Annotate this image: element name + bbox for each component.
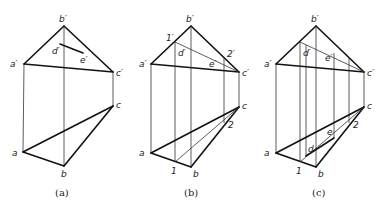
- label-a: a: [139, 148, 145, 158]
- label-a-prime: a′: [264, 59, 272, 69]
- label-e: e: [327, 127, 333, 137]
- edge-a-b: [23, 152, 64, 166]
- projection-diagram: b′ a′ c′ d′ e′ a b c (a) b′ 1′ d′ 2′ e′ …: [0, 0, 384, 212]
- segment-d-prime-e-prime: [60, 44, 83, 53]
- edge-a-prime-b-prime: [24, 26, 64, 64]
- label-b: b: [193, 169, 199, 179]
- panel-c: b′ d′ e′ a′ c′ c 2 e d a 1 b (c): [264, 14, 374, 198]
- edge-a-b: [151, 153, 191, 167]
- label-b-prime: b′: [59, 14, 67, 24]
- label-c: c: [242, 101, 247, 111]
- label-c-prime: c′: [367, 68, 374, 78]
- label-c-prime: c′: [116, 68, 123, 78]
- label-e-prime: e′: [209, 59, 217, 69]
- label-d-prime: d′: [178, 48, 186, 58]
- aux-line-1-2: [175, 107, 239, 162]
- label-a: a: [12, 148, 18, 158]
- label-b-prime: b′: [186, 14, 194, 24]
- label-e-prime: e′: [80, 55, 88, 65]
- label-2-prime: 2′: [227, 49, 235, 59]
- edge-a-prime-c-prime: [151, 64, 239, 72]
- edge-b-c: [191, 107, 239, 167]
- label-d: d: [308, 144, 314, 154]
- label-c: c: [367, 101, 372, 111]
- projector-a: [23, 64, 24, 152]
- edge-b-c: [64, 106, 113, 166]
- label-a: a: [264, 148, 270, 158]
- caption-c: (c): [312, 187, 326, 198]
- label-2: 2: [353, 120, 359, 130]
- caption-b: (b): [184, 187, 198, 198]
- label-c: c: [116, 100, 121, 110]
- label-c-prime: c′: [242, 68, 249, 78]
- edge-a-prime-b-prime: [151, 26, 191, 64]
- label-b: b: [61, 169, 67, 179]
- label-d-prime: d′: [303, 48, 311, 58]
- caption-a: (a): [55, 187, 69, 198]
- edge-b-prime-c-prime: [316, 26, 364, 72]
- label-1: 1: [171, 166, 177, 176]
- edge-a-prime-b-prime: [276, 26, 316, 64]
- label-e-prime: e′: [325, 53, 333, 63]
- label-b-prime: b′: [311, 14, 319, 24]
- label-a-prime: a′: [139, 59, 147, 69]
- label-1-prime: 1′: [166, 33, 174, 43]
- panel-b: b′ 1′ d′ 2′ e′ a′ c′ c 2 a 1 b (b): [139, 14, 249, 198]
- label-2: 2: [228, 120, 234, 130]
- edge-a-b: [276, 153, 316, 167]
- panel-a: b′ a′ c′ d′ e′ a b c (a): [10, 14, 123, 198]
- edge-a-c: [23, 106, 113, 152]
- label-1: 1: [296, 166, 302, 176]
- edge-a-prime-c-prime: [24, 64, 113, 72]
- edge-a-c: [151, 107, 239, 153]
- label-b: b: [318, 169, 324, 179]
- label-d-prime: d′: [52, 46, 60, 56]
- edge-a-prime-c-prime: [276, 64, 364, 72]
- label-a-prime: a′: [10, 59, 18, 69]
- edge-b-c: [316, 107, 364, 167]
